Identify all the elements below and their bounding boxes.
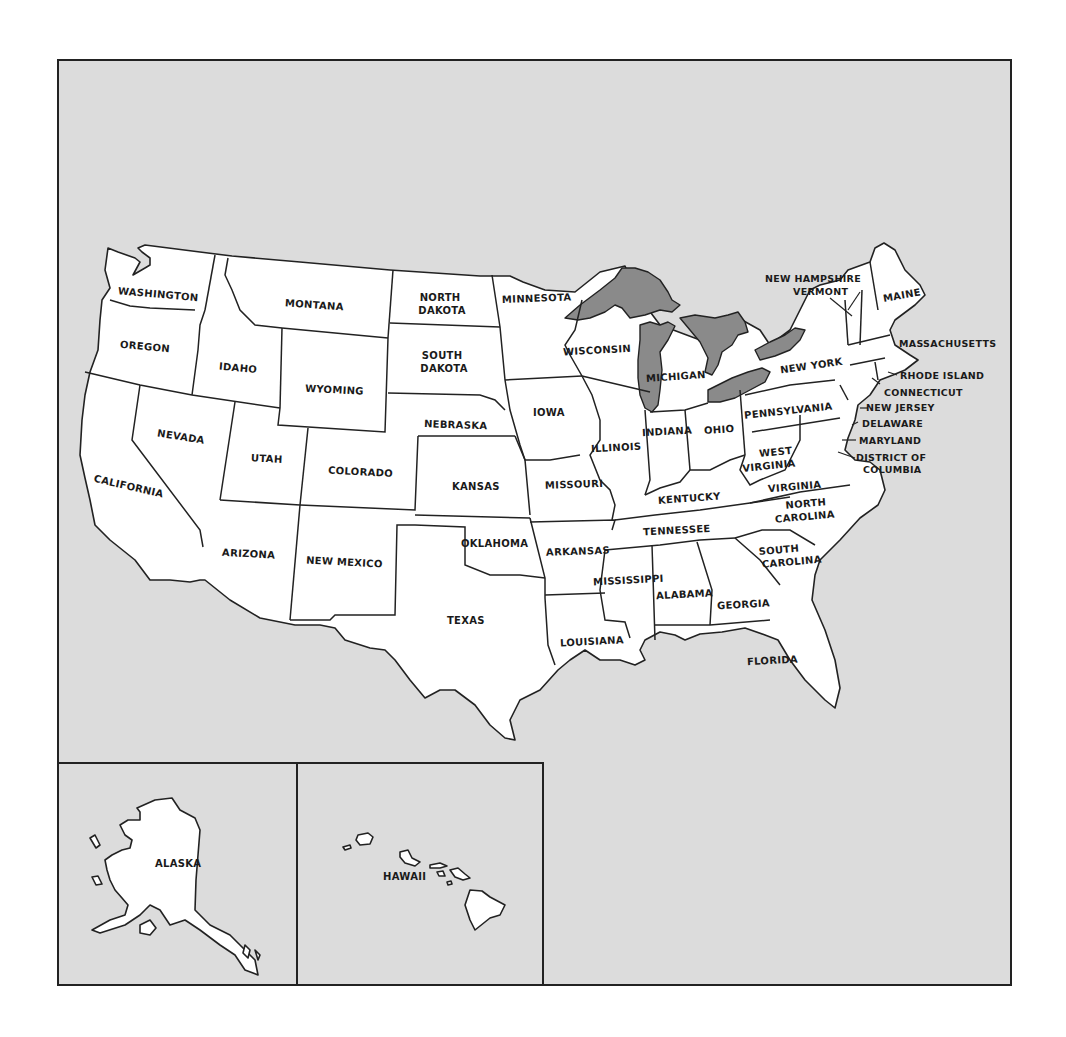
label-iowa: IOWA: [533, 407, 565, 418]
label-oklahoma: OKLAHOMA: [461, 538, 528, 549]
label-south-dakota-line1: SOUTH: [422, 350, 463, 361]
label-alaska: ALASKA: [155, 858, 201, 869]
label-rhode-island: RHODE ISLAND: [900, 370, 984, 381]
label-texas: TEXAS: [447, 615, 485, 626]
label-utah: UTAH: [251, 452, 283, 465]
label-new-jersey: NEW JERSEY: [866, 402, 935, 413]
us-states-map: WASHINGTON OREGON CALIFORNIA IDAHO NEVAD…: [0, 0, 1066, 1037]
label-massachusetts: MASSACHUSETTS: [899, 338, 996, 349]
label-kansas: KANSAS: [452, 481, 500, 492]
inset-hawaii: HAWAII: [297, 763, 543, 985]
label-nebraska: NEBRASKA: [424, 418, 488, 431]
hawaii-lanai: [437, 871, 445, 876]
label-missouri: MISSOURI: [545, 478, 603, 491]
label-north-dakota-line2: DAKOTA: [418, 305, 465, 316]
inset-alaska: ALASKA: [58, 763, 297, 985]
hawaii-kauai: [356, 833, 373, 845]
label-new-hampshire: NEW HAMPSHIRE: [765, 273, 861, 284]
label-dc-line2: COLUMBIA: [863, 464, 922, 475]
label-south-dakota-line2: DAKOTA: [420, 363, 467, 374]
label-hawaii: HAWAII: [383, 871, 426, 882]
label-north-dakota-line1: NORTH: [420, 292, 461, 303]
label-maryland: MARYLAND: [859, 435, 921, 446]
label-connecticut: CONNECTICUT: [884, 387, 963, 398]
label-vermont: VERMONT: [793, 286, 848, 297]
label-delaware: DELAWARE: [862, 418, 923, 429]
label-arkansas: ARKANSAS: [546, 545, 610, 558]
label-ohio: OHIO: [704, 423, 735, 436]
hawaii-kahoolawe: [447, 881, 452, 885]
label-district-of-columbia: DISTRICT OF COLUMBIA: [856, 452, 930, 475]
label-dc-line1: DISTRICT OF: [856, 452, 926, 463]
